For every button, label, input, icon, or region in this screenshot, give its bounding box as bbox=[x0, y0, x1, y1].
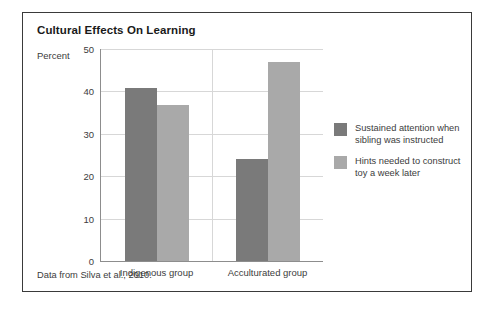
bar[interactable] bbox=[268, 62, 300, 261]
x-axis-line bbox=[100, 261, 323, 262]
y-axis-tick-label: 50 bbox=[83, 44, 94, 55]
y-axis-tick-label: 20 bbox=[83, 171, 94, 182]
source-note: Data from Silva et al., 2010. bbox=[37, 270, 152, 280]
bar-group: Acculturated group bbox=[212, 49, 323, 261]
bar[interactable] bbox=[236, 159, 268, 261]
legend-item-label: Hints needed to construct toy a week lat… bbox=[355, 155, 462, 179]
chart-figure: Cultural Effects On Learning Percent 010… bbox=[22, 12, 472, 292]
chart-legend: Sustained attention when sibling was ins… bbox=[334, 122, 462, 188]
y-axis-tick-label: 0 bbox=[89, 256, 94, 267]
legend-item[interactable]: Sustained attention when sibling was ins… bbox=[334, 122, 462, 146]
y-axis-tick-label: 40 bbox=[83, 86, 94, 97]
y-axis-tick-label: 10 bbox=[83, 213, 94, 224]
bar-group: Indigenous group bbox=[101, 49, 212, 261]
legend-item-label: Sustained attention when sibling was ins… bbox=[355, 122, 462, 146]
bar[interactable] bbox=[157, 105, 189, 261]
legend-item[interactable]: Hints needed to construct toy a week lat… bbox=[334, 155, 462, 179]
y-axis-label: Percent bbox=[37, 50, 70, 61]
x-axis-category-label: Acculturated group bbox=[212, 267, 323, 278]
legend-swatch-icon bbox=[334, 123, 347, 136]
legend-swatch-icon bbox=[334, 156, 347, 169]
y-axis-tick-label: 30 bbox=[83, 128, 94, 139]
chart-title: Cultural Effects On Learning bbox=[37, 24, 196, 36]
bar[interactable] bbox=[125, 88, 157, 261]
plot-area: 01020304050 Indigenous groupAcculturated… bbox=[101, 49, 323, 261]
